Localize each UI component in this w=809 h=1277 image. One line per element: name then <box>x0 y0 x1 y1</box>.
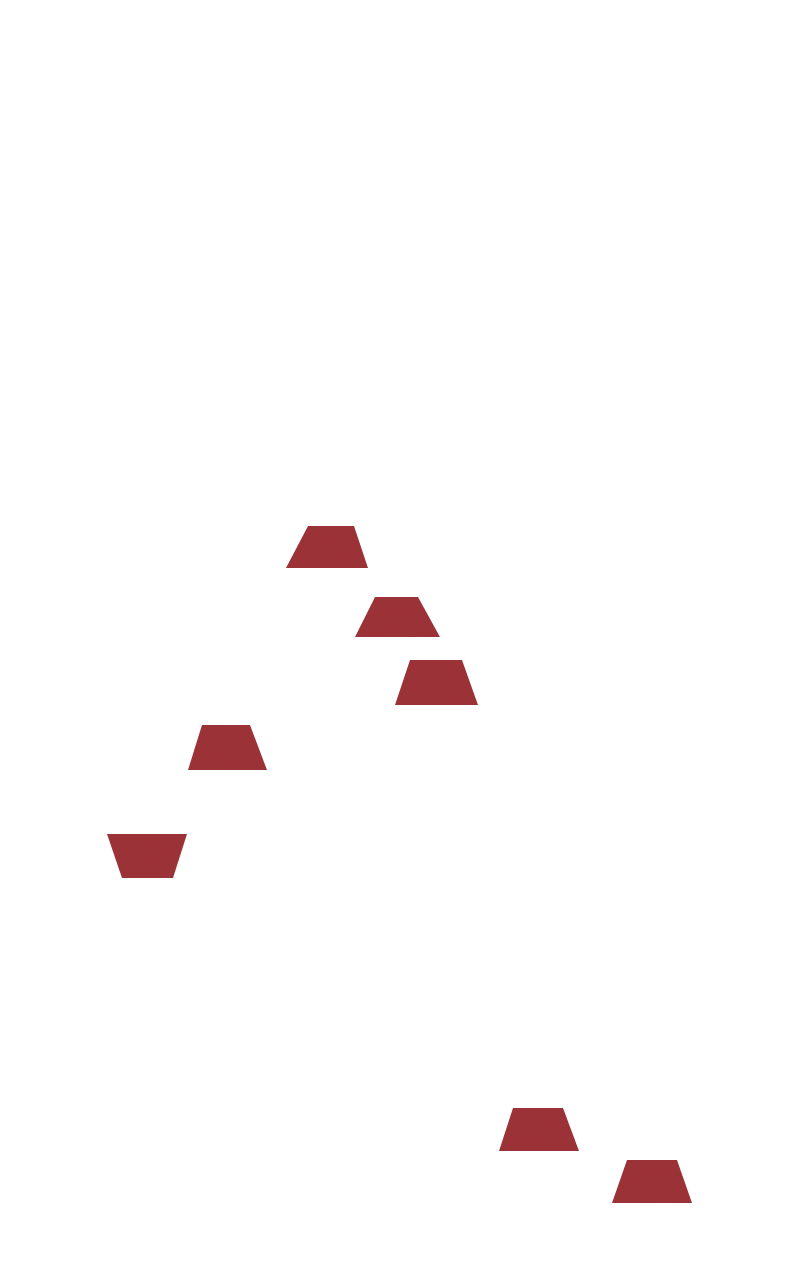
figure-page: Red Trapezoids <box>0 0 809 1277</box>
figure-canvas <box>0 0 809 1277</box>
figure-background <box>0 0 809 1277</box>
